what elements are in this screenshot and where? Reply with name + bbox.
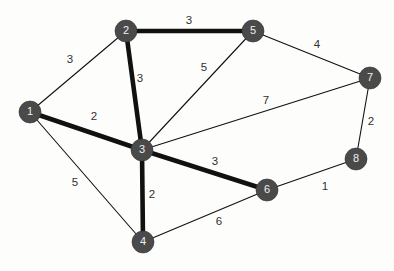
edge-weights-layer: 3253357326412 (67, 14, 374, 227)
edge-weight-label-2-5: 3 (186, 14, 192, 26)
edge-weight-label-2-3: 3 (137, 72, 143, 84)
node-label-7: 7 (367, 71, 373, 83)
graph-node-1[interactable]: 1 (19, 101, 41, 123)
graph-node-7[interactable]: 7 (359, 67, 381, 89)
edge-weight-label-3-7: 7 (263, 94, 269, 106)
graph-node-2[interactable]: 2 (115, 20, 137, 42)
graph-node-4[interactable]: 4 (132, 231, 154, 253)
edge-weight-label-5-7: 4 (314, 38, 321, 50)
node-label-8: 8 (353, 152, 359, 164)
node-label-3: 3 (139, 143, 145, 155)
node-label-4: 4 (140, 235, 146, 247)
graph-edge-4-6 (143, 190, 267, 242)
node-label-5: 5 (250, 24, 256, 36)
graph-canvas: 3253357326412 12345678 (0, 0, 394, 271)
graph-edge-1-2 (30, 31, 126, 112)
graph-node-3[interactable]: 3 (131, 139, 153, 161)
graph-node-5[interactable]: 5 (242, 20, 264, 42)
node-label-1: 1 (27, 105, 33, 117)
node-label-6: 6 (264, 183, 270, 195)
edge-weight-label-3-5: 5 (201, 61, 207, 73)
graph-node-8[interactable]: 8 (345, 148, 367, 170)
graph-edge-3-6 (142, 150, 267, 190)
edge-weight-label-3-6: 3 (212, 155, 218, 167)
edge-weight-label-1-4: 5 (72, 176, 78, 188)
edge-weight-label-6-8: 1 (322, 180, 328, 192)
graph-diagram: 3253357326412 12345678 (0, 0, 394, 271)
edge-weight-label-4-6: 6 (216, 215, 222, 227)
graph-edge-2-3 (126, 31, 142, 150)
graph-edge-5-7 (253, 31, 370, 78)
node-label-2: 2 (123, 24, 129, 36)
edge-weight-label-3-4: 2 (149, 188, 155, 200)
edge-weight-label-1-3: 2 (91, 110, 97, 122)
graph-edge-6-8 (267, 159, 356, 190)
graph-node-6[interactable]: 6 (256, 179, 278, 201)
edge-weight-label-7-8: 2 (368, 115, 374, 127)
edge-weight-label-1-2: 3 (67, 53, 73, 65)
graph-edge-3-4 (142, 150, 143, 242)
